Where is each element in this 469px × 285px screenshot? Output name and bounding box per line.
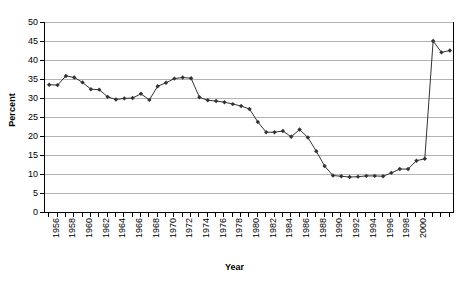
data-point-marker xyxy=(214,99,218,103)
x-tick-label: 1992 xyxy=(352,218,361,238)
x-tick-label: 1988 xyxy=(319,218,328,238)
x-axis-tick-labels: 1956195819601962196419661968197019721974… xyxy=(44,218,454,258)
x-axis-tick xyxy=(274,213,275,217)
x-axis-tick xyxy=(107,213,108,217)
x-tick-label: 1970 xyxy=(169,218,178,238)
x-axis-tick xyxy=(123,213,124,217)
data-point-marker xyxy=(181,75,185,79)
x-axis-tick xyxy=(73,213,74,217)
x-tick-label: 1964 xyxy=(118,218,127,238)
line-chart: Percent 05101520253035404550 19561958196… xyxy=(0,0,469,285)
data-series-line xyxy=(45,22,454,212)
x-axis-tick xyxy=(165,213,166,217)
x-axis-tick xyxy=(432,213,433,217)
data-point-marker xyxy=(272,130,276,134)
x-axis-title-text: Year xyxy=(225,262,244,272)
data-point-marker xyxy=(222,100,226,104)
data-point-marker xyxy=(47,83,51,87)
x-axis-tick xyxy=(57,213,58,217)
x-axis-tick xyxy=(265,213,266,217)
x-tick-label: 1966 xyxy=(135,218,144,238)
x-axis-title: Year xyxy=(0,262,469,272)
x-axis-tick xyxy=(215,213,216,217)
x-axis-tick xyxy=(232,213,233,217)
x-axis-tick xyxy=(98,213,99,217)
data-point-marker xyxy=(72,75,76,79)
x-tick-label: 1976 xyxy=(219,218,228,238)
x-axis-tick xyxy=(190,213,191,217)
data-point-marker xyxy=(239,104,243,108)
data-point-marker xyxy=(347,175,351,179)
data-point-marker xyxy=(373,174,377,178)
y-axis-tick xyxy=(40,98,44,99)
x-axis-tick xyxy=(440,213,441,217)
data-point-marker xyxy=(130,96,134,100)
data-point-marker xyxy=(155,84,159,88)
x-tick-label: 1960 xyxy=(85,218,94,238)
y-tick-label: 0 xyxy=(18,208,38,217)
x-axis-tick xyxy=(332,213,333,217)
data-point-marker xyxy=(364,174,368,178)
data-point-marker xyxy=(172,76,176,80)
x-tick-label: 1962 xyxy=(102,218,111,238)
y-axis-tick xyxy=(40,193,44,194)
y-axis-tick xyxy=(40,212,44,213)
y-axis-tick xyxy=(40,155,44,156)
y-tick-label: 5 xyxy=(18,189,38,198)
data-point-marker xyxy=(164,81,168,85)
x-axis-tick xyxy=(415,213,416,217)
x-axis-tick xyxy=(65,213,66,217)
y-tick-label: 45 xyxy=(18,37,38,46)
data-point-marker xyxy=(339,174,343,178)
x-tick-label: 1958 xyxy=(68,218,77,238)
x-axis-tick xyxy=(90,213,91,217)
x-axis-tick xyxy=(48,213,49,217)
data-point-marker xyxy=(398,167,402,171)
x-axis-tick xyxy=(198,213,199,217)
x-axis-tick xyxy=(324,213,325,217)
x-tick-label: 1994 xyxy=(369,218,378,238)
x-tick-label: 1972 xyxy=(185,218,194,238)
x-tick-label: 1996 xyxy=(386,218,395,238)
x-axis-tick xyxy=(382,213,383,217)
x-axis-tick xyxy=(390,213,391,217)
y-axis-tick xyxy=(40,136,44,137)
y-tick-label: 15 xyxy=(18,151,38,160)
plot-area xyxy=(44,22,454,212)
data-point-marker xyxy=(389,171,393,175)
y-axis-tick xyxy=(40,117,44,118)
x-axis-tick xyxy=(207,213,208,217)
x-tick-label: 1984 xyxy=(285,218,294,238)
y-axis-tick xyxy=(40,60,44,61)
x-axis-tick xyxy=(307,213,308,217)
y-tick-label: 35 xyxy=(18,75,38,84)
y-tick-label: 10 xyxy=(18,170,38,179)
x-axis-tick xyxy=(357,213,358,217)
x-axis-tick xyxy=(349,213,350,217)
x-axis-tick xyxy=(223,213,224,217)
data-point-marker xyxy=(423,157,427,161)
y-tick-label: 20 xyxy=(18,132,38,141)
x-axis-tick xyxy=(132,213,133,217)
x-tick-label: 1956 xyxy=(52,218,61,238)
x-tick-label: 1986 xyxy=(302,218,311,238)
x-axis-tick xyxy=(140,213,141,217)
x-axis-tick xyxy=(340,213,341,217)
data-point-marker xyxy=(197,95,201,99)
x-axis-tick xyxy=(157,213,158,217)
x-axis-tick xyxy=(407,213,408,217)
x-axis-tick xyxy=(449,213,450,217)
data-point-marker xyxy=(231,102,235,106)
data-point-marker xyxy=(448,48,452,52)
x-tick-label: 1978 xyxy=(235,218,244,238)
y-axis-title-text: Percent xyxy=(7,93,17,127)
x-axis-tick xyxy=(290,213,291,217)
data-point-marker xyxy=(114,97,118,101)
x-axis-tick xyxy=(399,213,400,217)
x-axis-tick xyxy=(182,213,183,217)
y-tick-label: 50 xyxy=(18,18,38,27)
y-axis-tick-labels: 05101520253035404550 xyxy=(18,16,38,212)
x-axis-tick xyxy=(82,213,83,217)
y-tick-label: 30 xyxy=(18,94,38,103)
x-tick-label: 1990 xyxy=(335,218,344,238)
